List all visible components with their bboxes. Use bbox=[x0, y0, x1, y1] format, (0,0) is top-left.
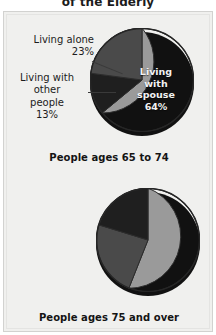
pie-2-caption: People ages 75 and over bbox=[4, 312, 213, 323]
pie-2-graphic bbox=[96, 188, 200, 292]
pie-1-label-other-pct: 13% bbox=[36, 109, 58, 120]
pie-1-label-spouse-l2: with bbox=[144, 78, 167, 89]
pie-1-label-spouse: Living with spouse 64% bbox=[130, 66, 182, 112]
pie-1-label-other-l2: other bbox=[34, 84, 61, 95]
pie-chart-ages-75-over: Living with spouse 44% Living alone 39% … bbox=[4, 174, 213, 332]
pie-1-label-other-l1: Living with bbox=[20, 72, 74, 83]
pie-1-label-spouse-l1: Living bbox=[140, 66, 172, 77]
figure-title-text: of the Elderly bbox=[0, 0, 216, 8]
pie-1-label-spouse-pct: 64% bbox=[145, 101, 168, 112]
pie-1-caption: People ages 65 to 74 bbox=[4, 152, 213, 163]
figure-panel: Living with spouse 64% Living alone 23% … bbox=[3, 11, 213, 332]
pie-1-leader-other bbox=[88, 92, 116, 93]
pie-2-svg bbox=[96, 188, 200, 292]
pie-1-label-alone-name: Living alone bbox=[34, 34, 94, 45]
pie-2-disc bbox=[96, 188, 200, 292]
pie-1-label-alone: Living alone 23% bbox=[10, 34, 94, 59]
pie-1-label-other: Living with other people 13% bbox=[6, 72, 88, 122]
figure-title-clipped: of the Elderly bbox=[0, 0, 216, 11]
pie-1-label-alone-pct: 23% bbox=[72, 46, 94, 57]
pie-1-label-spouse-l3: spouse bbox=[137, 89, 175, 100]
pie-chart-ages-65-74: Living with spouse 64% Living alone 23% … bbox=[4, 14, 213, 172]
pie-1-label-other-l3: people bbox=[30, 97, 64, 108]
